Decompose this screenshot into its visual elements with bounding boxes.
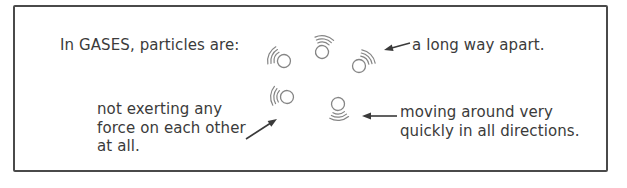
motion-waves-icon [277,90,280,102]
arrow-not-exerting-force [246,119,277,139]
diagram-canvas [0,0,627,188]
arrow-a-long-way-apart [384,43,410,51]
arrowhead-icon [362,113,371,120]
gas-particle-3 [348,48,377,77]
motion-waves-icon [362,48,377,63]
motion-waves-icon [269,49,278,64]
arrow-moving-quickly [362,113,397,120]
gas-particle-1 [265,46,294,73]
arrowhead-icon [268,119,277,127]
motion-waves-icon [318,41,330,45]
gas-particle-5 [328,97,349,121]
gas-particle-4 [270,86,294,107]
arrowhead-icon [384,44,394,51]
gas-particle-2 [312,34,335,60]
motion-waves-icon [333,112,345,115]
gas-particles-figure: In GASES, particles are: a long way apar… [0,0,627,188]
